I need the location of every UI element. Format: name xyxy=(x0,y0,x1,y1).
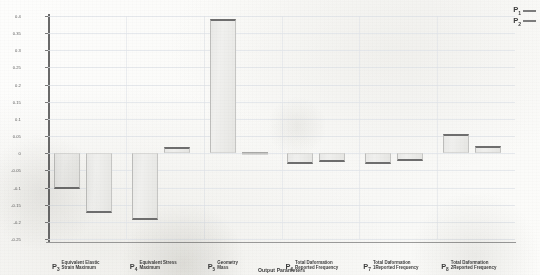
bar xyxy=(164,147,190,153)
y-axis-tick-label: 0.1 xyxy=(0,116,21,121)
legend-swatch xyxy=(523,10,536,12)
bar xyxy=(443,134,469,153)
vertical-gridline xyxy=(437,16,438,239)
x-axis-group-label: P7Total Daformation 1Reported Frequency xyxy=(363,260,418,273)
bar xyxy=(319,153,345,162)
parameter-name: P3 xyxy=(52,260,60,273)
y-axis-tick-label: 0.25 xyxy=(0,65,21,70)
bar xyxy=(242,152,268,155)
x-axis-title: Output Parameters xyxy=(258,267,305,273)
vertical-gridline xyxy=(359,16,360,239)
parameter-name: P7 xyxy=(363,260,371,273)
bar xyxy=(54,153,80,189)
bar xyxy=(132,153,158,220)
plot-area xyxy=(48,16,515,239)
bar xyxy=(210,19,236,153)
parameter-description: Total Daformation 1Reported Frequency xyxy=(373,260,419,271)
vertical-gridline xyxy=(204,16,205,239)
x-axis-group-label: P4Equivalent Stress Maximum xyxy=(130,260,177,273)
parameter-name: P4 xyxy=(130,260,138,273)
bar xyxy=(86,153,112,213)
parameter-description: Equivalent Elastic Strain Maximum xyxy=(62,260,100,271)
bar xyxy=(397,153,423,161)
y-axis-tick-label: 0.15 xyxy=(0,99,21,104)
y-axis-tick-label: -0.05 xyxy=(0,168,21,173)
chart-page: Local sensitivity 0.40.350.30.250.20.150… xyxy=(0,0,540,275)
y-axis-tick-label: -0.25 xyxy=(0,237,21,242)
y-axis-tick-label: 0.35 xyxy=(0,31,21,36)
bar xyxy=(475,146,501,153)
y-axis-tick-label: -0.1 xyxy=(0,185,21,190)
legend-swatch xyxy=(523,20,536,22)
legend-item[interactable]: P2 xyxy=(513,17,536,27)
vertical-gridline xyxy=(282,16,283,239)
parameter-description: Total Daformation 2Reported Frequency xyxy=(451,260,497,271)
legend-item[interactable]: P1 xyxy=(513,6,536,16)
bar xyxy=(287,153,313,163)
parameter-name: P5 xyxy=(208,260,216,273)
parameter-name: P8 xyxy=(441,260,449,273)
y-axis-tick-label: -0.2 xyxy=(0,219,21,224)
x-axis-group-label: P3Equivalent Elastic Strain Maximum xyxy=(52,260,100,273)
y-axis-tick-label: 0.05 xyxy=(0,134,21,139)
vertical-gridline xyxy=(126,16,127,239)
x-axis-line xyxy=(46,242,516,243)
parameter-description: Equivalent Stress Maximum xyxy=(139,260,176,271)
y-axis-tick-label: 0 xyxy=(0,151,21,156)
legend: P1P2 xyxy=(513,6,536,26)
y-axis-tick-label: 0.4 xyxy=(0,14,21,19)
parameter-description: Geometry Mass xyxy=(217,260,238,271)
y-axis-tick-label: 0.2 xyxy=(0,82,21,87)
y-axis-tick-label: -0.15 xyxy=(0,202,21,207)
y-axis-tick-label: 0.3 xyxy=(0,48,21,53)
x-axis-group-label: P8Total Daformation 2Reported Frequency xyxy=(441,260,496,273)
legend-label: P2 xyxy=(513,17,521,27)
legend-label: P1 xyxy=(513,6,521,16)
bar xyxy=(365,153,391,164)
gridline xyxy=(48,239,515,240)
x-axis-group-label: P5Geometry Mass xyxy=(208,260,238,273)
